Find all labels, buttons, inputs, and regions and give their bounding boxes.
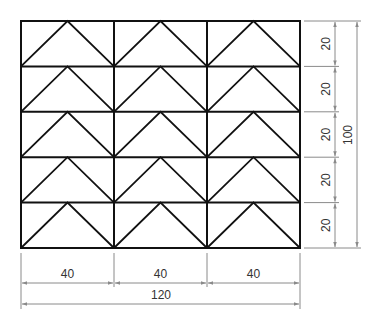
- dimension-label: 20: [319, 218, 333, 232]
- cell-triangle: [114, 66, 207, 111]
- dimension-label: 20: [319, 173, 333, 187]
- cell-triangle: [21, 112, 114, 157]
- dimension-label: 40: [247, 267, 261, 281]
- cell-triangle: [114, 21, 207, 66]
- dimension-label: 20: [319, 37, 333, 51]
- outer-frame: [21, 21, 300, 248]
- cell-triangle: [207, 203, 300, 248]
- cell-triangle: [207, 66, 300, 111]
- dimension-label: 40: [61, 267, 75, 281]
- vertical-dimensions: 2020202020100: [304, 21, 361, 248]
- dimension-label: 20: [319, 82, 333, 96]
- cell-triangle: [207, 112, 300, 157]
- cell-triangle: [21, 203, 114, 248]
- cell-triangle: [21, 157, 114, 202]
- cell-triangle: [21, 21, 114, 66]
- cell-triangle: [207, 157, 300, 202]
- cell-triangle: [114, 157, 207, 202]
- dimension-label: 40: [154, 267, 168, 281]
- cell-triangle: [207, 21, 300, 66]
- total-dimension-label: 100: [341, 125, 355, 145]
- cell-triangle: [114, 203, 207, 248]
- cell-triangle: [21, 66, 114, 111]
- total-dimension-label: 120: [151, 288, 171, 302]
- cell-triangle: [114, 112, 207, 157]
- technical-drawing: 2020202020100 404040120: [0, 0, 377, 326]
- horizontal-dimensions: 404040120: [21, 253, 300, 309]
- pattern-grid: [21, 21, 300, 248]
- dimension-label: 20: [319, 128, 333, 142]
